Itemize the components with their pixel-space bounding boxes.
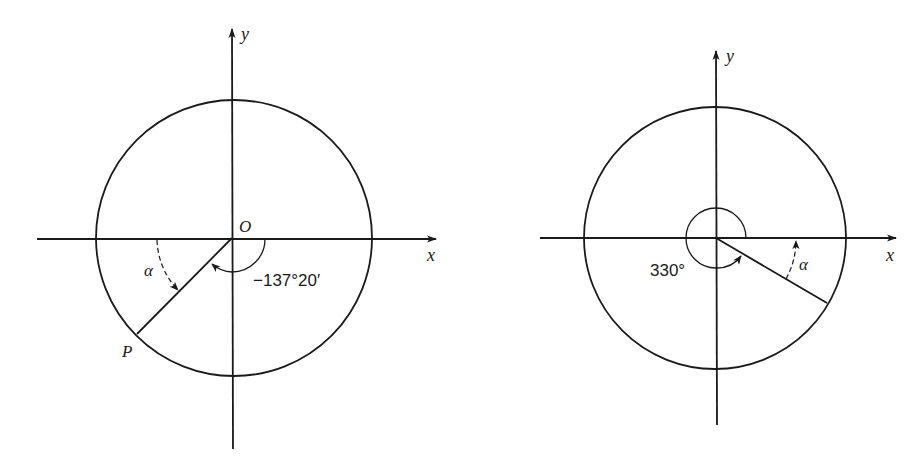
left-reference-angle-arc [157,240,178,290]
right-x-axis-label: x [885,245,894,265]
right-alpha-label: α [799,255,809,274]
left-figure: y x O P α −137°20′ [37,24,436,449]
right-figure: y x α 330° [540,46,896,425]
right-y-axis-label: y [724,46,734,66]
left-alpha-label: α [144,261,154,280]
point-p-label: P [121,342,132,361]
left-angle-label: −137°20′ [253,271,320,290]
origin-label: O [239,217,251,236]
left-y-axis-label: y [239,24,249,44]
left-terminal-ray [137,238,232,334]
left-angle-arc [212,239,265,272]
right-angle-label: 330° [650,261,685,280]
left-x-axis-label: x [426,245,435,265]
diagram-canvas: y x O P α −137°20′ y x α 330° [0,0,924,463]
right-reference-angle-arc [786,241,796,279]
left-unit-circle [96,100,372,376]
right-terminal-ray [716,238,827,303]
